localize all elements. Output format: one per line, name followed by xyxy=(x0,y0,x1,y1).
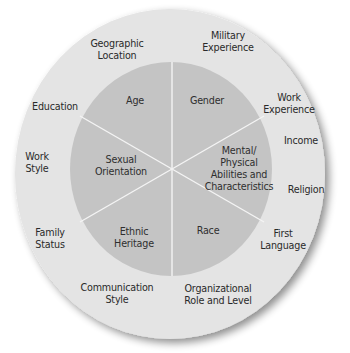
inner-label-ethnic-heritage: Ethnic Heritage xyxy=(114,226,154,250)
inner-label-age: Age xyxy=(126,95,144,107)
outer-label-family-status: Family Status xyxy=(35,227,65,251)
outer-label-military-experience: Military Experience xyxy=(202,30,254,54)
inner-label-race: Race xyxy=(197,225,220,237)
outer-label-work-style: Work Style xyxy=(25,151,49,175)
outer-label-income: Income xyxy=(284,135,318,147)
outer-label-first-language: First Language xyxy=(260,228,306,252)
inner-label-sexual-orientation: Sexual Orientation xyxy=(95,154,147,178)
inner-label-mental-physical-abilities-and-characteristics: Mental/ Physical Abilities and Character… xyxy=(205,145,274,193)
diversity-wheel xyxy=(0,0,350,353)
outer-label-communication-style: Communication Style xyxy=(80,282,153,306)
outer-label-geographic-location: Geographic Location xyxy=(90,38,143,62)
outer-label-education: Education xyxy=(32,101,78,113)
outer-label-organizational-role-and-level: Organizational Role and Level xyxy=(184,283,251,307)
outer-label-religion: Religion xyxy=(288,184,325,196)
inner-label-gender: Gender xyxy=(190,95,224,107)
outer-label-work-experience: Work Experience xyxy=(263,92,315,116)
